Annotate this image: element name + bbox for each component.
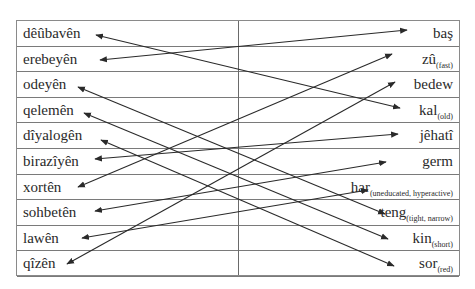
left-word: xortên <box>23 178 61 196</box>
left-word: dêûbavên <box>23 24 80 42</box>
right-word: teng(tight, narrow) <box>381 203 453 228</box>
right-word-text: sor <box>419 255 437 271</box>
right-word-text: bedew <box>414 76 453 92</box>
right-word: kin(short) <box>413 229 454 254</box>
left-word: dîyalogên <box>23 126 82 144</box>
left-word: odeyên <box>23 75 66 93</box>
right-word-text: teng <box>381 204 407 220</box>
left-word: birazîyên <box>23 152 79 170</box>
right-word: baş <box>433 24 453 49</box>
left-word: lawên <box>23 229 59 247</box>
gloss: (uneducated, hyperactive) <box>370 189 453 198</box>
right-word-text: jêhatî <box>420 127 453 143</box>
right-word: jêhatî <box>420 126 453 151</box>
right-word: bedew <box>414 75 453 100</box>
right-word-text: zû <box>422 51 436 67</box>
right-word: kal(old) <box>419 101 453 126</box>
gloss: (tight, narrow) <box>406 214 453 223</box>
right-word: har(uneducated, hyperactive) <box>351 178 453 203</box>
left-word: qîzên <box>23 254 55 272</box>
right-word: sor(red) <box>419 254 453 279</box>
gloss: (red) <box>437 265 453 274</box>
right-word: zû(fast) <box>422 50 453 75</box>
matching-table: dêûbavên baş erebeyên zû(fast) odeyên be… <box>16 20 460 276</box>
right-word-text: baş <box>433 25 453 41</box>
gloss: (fast) <box>436 61 453 70</box>
left-word: erebeyên <box>23 50 77 68</box>
left-word: sohbetên <box>23 203 76 221</box>
gloss: (old) <box>437 112 453 121</box>
right-word-text: kal <box>419 102 437 118</box>
right-word-text: germ <box>422 153 453 169</box>
left-word: qelemên <box>23 101 74 119</box>
column-divider <box>238 21 239 275</box>
right-word-text: har <box>351 179 370 195</box>
gloss: (short) <box>432 240 453 249</box>
right-word: germ <box>422 152 453 177</box>
right-word-text: kin <box>413 230 432 246</box>
